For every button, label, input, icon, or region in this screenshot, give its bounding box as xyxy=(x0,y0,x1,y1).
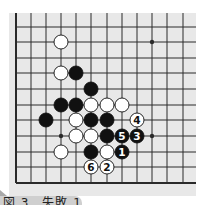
white-stone xyxy=(54,145,68,159)
star-point xyxy=(59,134,63,138)
move-number-label: 3 xyxy=(133,130,140,142)
white-stone xyxy=(84,98,98,112)
white-stone-4: 4 xyxy=(130,113,144,127)
white-stone xyxy=(100,98,114,112)
move-number-label: 1 xyxy=(118,146,125,158)
black-stone xyxy=(84,82,98,96)
black-stone-5: 5 xyxy=(115,129,129,143)
white-stone xyxy=(69,129,83,143)
black-stone-3: 3 xyxy=(130,129,144,143)
figure-caption: 図 3 失敗 1 xyxy=(3,196,82,205)
black-stone xyxy=(39,113,53,127)
white-stone xyxy=(54,66,68,80)
black-stone xyxy=(69,98,83,112)
move-number-label: 2 xyxy=(103,161,110,173)
black-stone xyxy=(100,129,114,143)
black-stone xyxy=(100,113,114,127)
star-point xyxy=(150,134,154,138)
black-stone xyxy=(54,98,68,112)
move-number-label: 6 xyxy=(87,161,94,173)
white-stone xyxy=(54,35,68,49)
move-number-label: 5 xyxy=(118,130,125,142)
white-stone xyxy=(100,145,114,159)
star-point xyxy=(150,40,154,44)
black-stone-1: 1 xyxy=(115,145,129,159)
white-stone xyxy=(115,98,129,112)
white-stone xyxy=(84,129,98,143)
black-stone xyxy=(84,113,98,127)
white-stone xyxy=(69,113,83,127)
black-stone xyxy=(84,145,98,159)
go-board-diagram: 453162 xyxy=(0,0,197,205)
white-stone-6: 6 xyxy=(84,160,98,174)
white-stone-2: 2 xyxy=(100,160,114,174)
black-stone xyxy=(69,66,83,80)
move-number-label: 4 xyxy=(133,114,140,126)
